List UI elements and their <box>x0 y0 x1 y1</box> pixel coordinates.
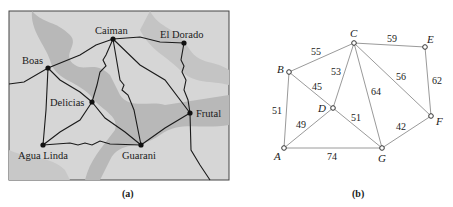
node-label-d: D <box>317 102 326 114</box>
weight-c-f: 56 <box>396 71 406 82</box>
city-label-caiman: Caiman <box>95 25 128 36</box>
weight-d-g: 51 <box>351 112 361 123</box>
weight-b-c: 55 <box>311 46 321 57</box>
node-a <box>282 146 287 151</box>
edge-c-f <box>354 43 431 116</box>
node-label-e: E <box>426 33 434 45</box>
caption-b: (b) <box>352 188 364 200</box>
city-label-delicias: Delicias <box>50 97 84 108</box>
edge-g-f <box>382 116 431 148</box>
weight-g-f: 42 <box>396 121 406 132</box>
node-label-g: G <box>378 152 386 164</box>
graph-panel: A B C D E F G 55 59 53 45 64 56 62 51 49… <box>272 27 443 200</box>
city-dot-boas <box>45 65 50 70</box>
node-labels: A B C D E F G <box>273 27 443 164</box>
edge-a-d <box>284 108 333 148</box>
weight-c-d: 53 <box>331 66 341 77</box>
node-f <box>429 114 434 119</box>
weight-c-g: 64 <box>371 86 381 97</box>
city-label-boas: Boas <box>22 55 43 66</box>
weight-a-g: 74 <box>327 151 337 162</box>
node-label-b: B <box>277 63 284 75</box>
figure: Caiman El Dorado Boas Delicias Frutal Ag… <box>0 0 453 207</box>
graph-edges <box>284 43 431 148</box>
node-b <box>287 70 292 75</box>
city-label-agua-linda: Agua Linda <box>18 150 68 161</box>
node-c <box>352 41 357 46</box>
city-dot-el-dorado <box>181 40 186 45</box>
city-dot-caiman <box>110 36 115 41</box>
edge-a-b <box>284 72 289 148</box>
map-panel: Caiman El Dorado Boas Delicias Frutal Ag… <box>9 11 229 200</box>
node-d <box>331 106 336 111</box>
city-dot-guarani <box>138 142 143 147</box>
weight-c-e: 59 <box>387 33 397 44</box>
node-label-f: F <box>435 115 443 127</box>
weight-b-d: 45 <box>312 81 322 92</box>
node-label-c: C <box>350 27 358 39</box>
weight-a-b: 51 <box>272 105 282 116</box>
city-label-guarani: Guarani <box>122 150 156 161</box>
edge-e-f <box>425 47 431 116</box>
city-label-el-dorado: El Dorado <box>160 29 203 40</box>
weight-a-d: 49 <box>296 119 306 130</box>
city-dot-agua-linda <box>40 142 45 147</box>
city-label-frutal: Frutal <box>196 108 221 119</box>
node-e <box>423 45 428 50</box>
edge-b-c <box>289 43 354 72</box>
edge-b-d <box>289 72 333 108</box>
city-dot-frutal <box>187 110 192 115</box>
node-label-a: A <box>273 150 281 162</box>
caption-a: (a) <box>122 188 134 200</box>
city-dot-delicias <box>89 99 94 104</box>
node-g <box>380 146 385 151</box>
weight-e-f: 62 <box>432 75 442 86</box>
